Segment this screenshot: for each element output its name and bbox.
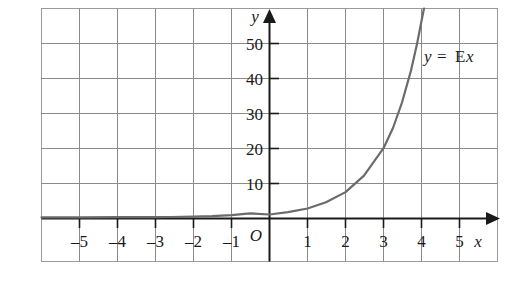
ytick-label-40: 40 [246,70,263,89]
y-axis-label: y [249,7,259,26]
curve-label-equals: = [437,47,447,66]
xtick-label-neg2: –2 [184,232,202,251]
xtick-label-neg5: –5 [70,232,88,251]
ytick-label-20: 20 [246,140,263,159]
curve-label-lhs: y [422,47,432,66]
exponential-graph-figure: –5 –4 –3 –2 –1 1 2 3 4 5 10 20 30 40 50 … [0,0,523,281]
xtick-label-neg1: –1 [222,232,240,251]
xtick-label-2: 2 [341,232,350,251]
origin-label: O [250,226,262,245]
x-axis-label: x [473,232,482,251]
curve-label-rhs-base: E [455,47,465,66]
ytick-label-50: 50 [246,35,263,54]
xtick-label-neg3: –3 [146,232,164,251]
ytick-label-10: 10 [246,175,263,194]
xtick-label-4: 4 [417,232,426,251]
xtick-label-neg4: –4 [108,232,127,251]
xtick-label-5: 5 [455,232,464,251]
curve-label-rhs-exponent: x [465,47,474,66]
xtick-label-3: 3 [379,232,388,251]
xtick-label-1: 1 [303,232,312,251]
ytick-label-30: 30 [246,105,263,124]
chart-svg: –5 –4 –3 –2 –1 1 2 3 4 5 10 20 30 40 50 … [0,0,523,281]
